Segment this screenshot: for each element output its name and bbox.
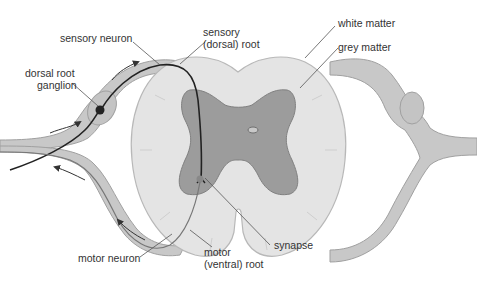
central-canal	[248, 127, 258, 133]
right-dorsal-root-ganglion	[400, 92, 424, 124]
label-dorsal-root-ganglion-2: ganglion	[37, 79, 77, 91]
sensory-cell-body	[96, 106, 105, 115]
label-motor-neuron: motor neuron	[78, 252, 141, 264]
label-sensory-root-2: (dorsal) root	[203, 38, 260, 50]
label-white-matter: white matter	[337, 17, 396, 29]
label-sensory-root-1: sensory	[203, 26, 241, 38]
spinal-cord-diagram: sensory neuron sensory (dorsal) root dor…	[0, 0, 477, 286]
label-dorsal-root-ganglion-1: dorsal root	[25, 67, 75, 79]
label-synapse: synapse	[274, 239, 313, 251]
motor-arrow-1	[55, 167, 85, 180]
label-grey-matter: grey matter	[338, 41, 392, 53]
label-motor-root-1: motor	[204, 246, 231, 258]
label-sensory-neuron: sensory neuron	[60, 32, 133, 44]
motor-cell-body	[197, 176, 204, 183]
label-motor-root-2: (ventral) root	[204, 258, 264, 270]
right-spinal-nerve	[330, 59, 477, 262]
